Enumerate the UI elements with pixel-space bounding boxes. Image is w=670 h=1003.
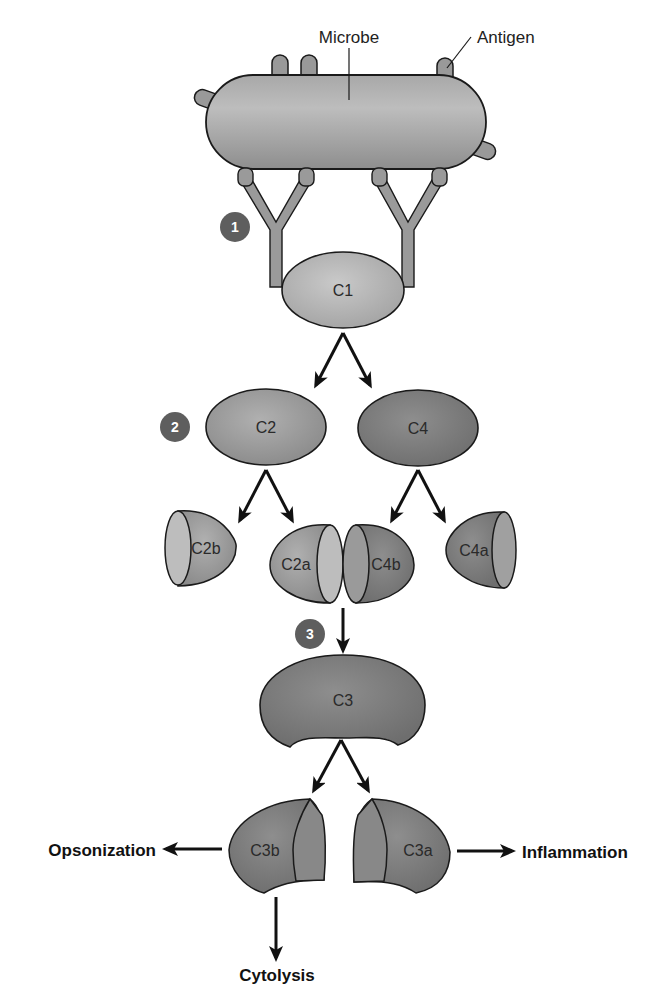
c3a-label: C3a [403,842,432,859]
c4b-label: C4b [371,556,400,573]
arrow-c3-to-c3a [341,740,368,790]
c1-label: C1 [333,282,354,299]
c2b-label: C2b [191,540,220,557]
arrow-c1-to-c2 [316,333,343,385]
antigen-leader-line [447,37,471,68]
microbe [192,37,498,169]
complement-pathway-diagram: Microbe Antigen 1 C1 2 C2 C4 C2b [0,0,670,1003]
antigen-label: Antigen [477,28,535,47]
cytolysis-label: Cytolysis [239,966,315,985]
inflammation-label: Inflammation [522,843,628,862]
arrow-c2-to-c2b [240,470,266,520]
arrow-c1-to-c4 [343,333,370,385]
svg-text:1: 1 [231,219,239,235]
c2-label: C2 [256,419,277,436]
arrow-c4-to-c4b [392,470,418,520]
c3a-fragment [353,799,450,893]
microbe-label: Microbe [319,28,379,47]
c4-label: C4 [408,420,429,437]
c2a-label: C2a [281,556,310,573]
step-3-badge: 3 [295,619,325,649]
step-2-badge: 2 [160,412,190,442]
opsonization-label: Opsonization [48,841,156,860]
arrow-c2-to-c2a [266,470,292,520]
microbe-body [206,75,486,169]
c3-label: C3 [333,692,354,709]
step-1-badge: 1 [220,212,250,242]
c3b-label: C3b [250,842,279,859]
arrow-c4-to-c4a [418,470,444,520]
svg-text:3: 3 [306,626,314,642]
arrow-c3-to-c3b [314,740,341,790]
c4a-label: C4a [459,542,488,559]
svg-text:2: 2 [171,419,179,435]
